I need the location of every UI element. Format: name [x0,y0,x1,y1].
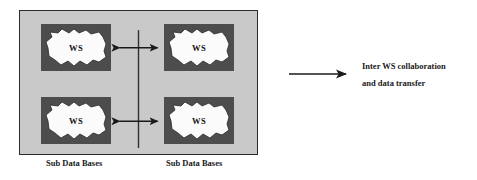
sub-databases-panel: WS WS WS WS [19,10,258,155]
node-top-right[interactable]: WS [164,24,234,71]
node-bottom-right[interactable]: WS [164,97,234,144]
caption-left: Sub Data Bases [46,158,102,168]
legend-line-2: and data transfer [362,75,446,92]
legend: Inter WS collaboration and data transfer [288,58,473,108]
legend-text-block: Inter WS collaboration and data transfer [362,58,446,92]
legend-line-1: Inter WS collaboration [362,58,446,75]
node-label: WS [164,43,234,53]
node-label: WS [41,116,111,126]
node-top-left[interactable]: WS [41,24,111,71]
caption-right: Sub Data Bases [166,158,222,168]
legend-arrow-icon [288,66,356,82]
diagram-canvas: WS WS WS WS Sub Data Bases Sub Data Base… [0,0,477,180]
node-bottom-left[interactable]: WS [41,97,111,144]
node-label: WS [41,43,111,53]
node-label: WS [164,116,234,126]
